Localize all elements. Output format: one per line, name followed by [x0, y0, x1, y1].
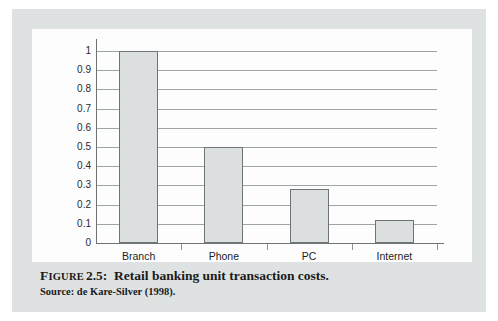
y-axis-tick-label: 0.2 [77, 200, 91, 210]
figure-source-line: Source: de Kare-Silver (1998). [40, 286, 470, 298]
y-axis-tick-label: 0.1 [77, 219, 91, 229]
figure-caption: FIGURE2.5: Retail banking unit transacti… [40, 268, 470, 298]
y-axis-tick-label: 0.4 [77, 161, 91, 171]
x-axis-tick-mark [352, 244, 353, 250]
y-axis-tick-label: 0.6 [77, 123, 91, 133]
y-axis-tick-label: 0.9 [77, 65, 91, 75]
x-axis-category-label: Branch [122, 251, 155, 262]
figure-label-word: FIGURE [40, 270, 84, 282]
x-axis-tick-mark [437, 244, 438, 250]
scanned-page: 00.10.20.30.40.50.60.70.80.91 BranchPhon… [0, 0, 498, 321]
figure-title-text: Retail banking unit transaction costs. [114, 268, 329, 283]
y-axis-tick-label: 0.3 [77, 180, 91, 190]
figure-caption-title: FIGURE2.5: Retail banking unit transacti… [40, 268, 470, 284]
x-axis-category-label: Internet [377, 251, 413, 262]
y-axis-tick-label: 0.5 [77, 142, 91, 152]
x-axis-category-label: PC [302, 251, 317, 262]
bar-chart-plot-area: 00.10.20.30.40.50.60.70.80.91 BranchPhon… [96, 51, 437, 243]
bar [290, 189, 329, 243]
bar [119, 51, 158, 243]
bar [204, 147, 243, 243]
y-axis-tick-label: 0 [85, 238, 91, 248]
y-axis-tick-label: 1 [85, 46, 91, 56]
x-axis-category-label: Phone [209, 251, 239, 262]
y-axis-tick-label: 0.7 [77, 104, 91, 114]
chart-figure-panel: 00.10.20.30.40.50.60.70.80.91 BranchPhon… [32, 29, 472, 262]
y-axis-tick-label: 0.8 [77, 84, 91, 94]
figure-number: 2.5: [86, 268, 107, 283]
bar [375, 220, 414, 243]
x-axis-tick-mark [267, 244, 268, 250]
x-axis-tick-mark [181, 244, 182, 250]
page-background: 00.10.20.30.40.50.60.70.80.91 BranchPhon… [12, 9, 486, 312]
x-axis-line [96, 243, 444, 244]
